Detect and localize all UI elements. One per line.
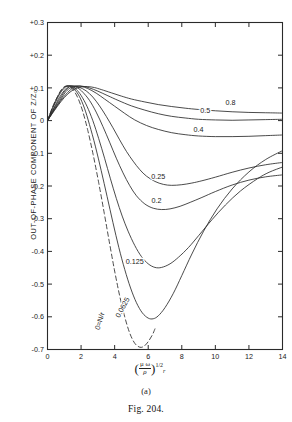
annotation-0.0625: 0.06250.0625 [113, 296, 131, 320]
annotation-0.8: 0.80.8 [225, 98, 235, 107]
annotation-0=N/r: 0=N/r0=N/r [93, 311, 107, 331]
annotation-label: 0.5 [200, 106, 210, 115]
y-axis-label: OUT-OF-PHASE COMPONENT OF Z/Z₀ [29, 55, 38, 275]
y-tick-label: -0.5 [32, 280, 44, 289]
y-tick-label: -0.6 [32, 312, 44, 321]
x-axis-exponent: 1/2 [155, 362, 163, 368]
curve-annotations: 0.80.80.50.50.40.40.250.250.20.20.1250.1… [93, 98, 236, 331]
x-tick-label: 12 [245, 352, 253, 361]
annotation-0.2: 0.20.2 [152, 196, 162, 205]
annotation-label: 0.8 [225, 98, 235, 107]
panel-label: (a) [0, 386, 292, 396]
annotation-label: 0.25 [151, 172, 165, 181]
x-tick-label: 0 [46, 352, 50, 361]
x-axis-variable: r [163, 368, 165, 374]
annotation-label: 0.0625 [113, 296, 131, 320]
x-tick-label: 2 [79, 352, 83, 361]
annotation-label: 0.2 [152, 196, 162, 205]
figure-caption-text: Fig. 204. [128, 404, 164, 414]
axis-tick-labels: 02468101214+0.3+0.2+0.10-0.1-0.2-0.3-0.4… [30, 18, 287, 361]
figure-204: 02468101214+0.3+0.2+0.10-0.1-0.2-0.3-0.4… [0, 0, 292, 422]
y-tick-label: -0.7 [32, 345, 44, 354]
x-axis-label: (μ ωρ)1/2r [110, 361, 190, 376]
annotation-0.25: 0.250.25 [151, 172, 165, 181]
x-tick-label: 14 [279, 352, 287, 361]
x-tick-label: 8 [180, 352, 184, 361]
x-axis-fraction: μ ωρ [139, 361, 151, 376]
curve-0.0625 [48, 86, 283, 319]
annotation-0.4: 0.40.4 [194, 125, 204, 134]
curve-0.25 [48, 86, 283, 185]
data-curves [48, 86, 283, 348]
chart-plot-area: 02468101214+0.3+0.2+0.10-0.1-0.2-0.3-0.4… [0, 0, 292, 422]
x-tick-label: 10 [211, 352, 219, 361]
annotation-0.125: 0.1250.125 [126, 257, 144, 266]
y-tick-label: 0 [40, 116, 44, 125]
x-axis-denominator: ρ [139, 369, 151, 376]
annotation-label: 0.125 [126, 257, 144, 266]
y-tick-label: +0.3 [30, 18, 44, 27]
annotation-0.5: 0.50.5 [200, 106, 210, 115]
annotation-label: 0=N/r [93, 311, 107, 331]
annotation-label: 0.4 [194, 125, 204, 134]
figure-caption: Fig. 204. [0, 404, 292, 414]
x-tick-label: 4 [113, 352, 117, 361]
